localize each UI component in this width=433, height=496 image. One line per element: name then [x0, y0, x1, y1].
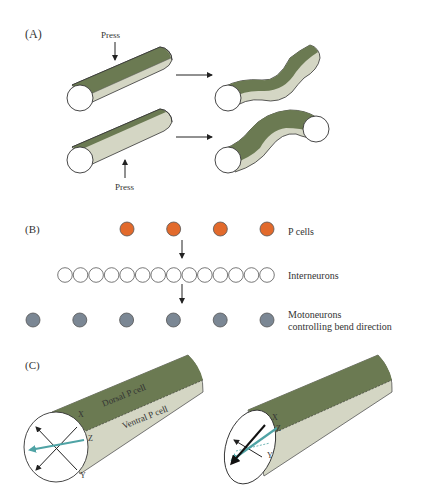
motoneurons-label-line2: controlling bend direction [288, 321, 392, 332]
motoneuron [120, 313, 134, 327]
motoneuron [213, 313, 227, 327]
segment-end-face [215, 147, 241, 173]
segment-end-face [215, 85, 241, 111]
panel-a-label: (A) [25, 27, 42, 41]
bent-segment-bottom [215, 110, 329, 173]
press-label-top: Press [101, 30, 120, 40]
bent-segment-top [215, 45, 320, 111]
interneuron [166, 268, 181, 283]
p-cell [167, 222, 181, 236]
motoneuron [73, 313, 87, 327]
interneuron [120, 268, 135, 283]
straight-segment-bottom [67, 109, 172, 173]
motoneuron [260, 313, 274, 327]
interneuron [260, 268, 275, 283]
segment-end-face [67, 147, 93, 173]
axis-x-label: X [78, 410, 84, 419]
cylinder-left: Dorsal P cell Ventral P cell X Z Y [24, 355, 203, 482]
motoneurons-label-line1: Motoneurons [288, 309, 341, 320]
interneuron [244, 268, 259, 283]
motoneuron [26, 313, 40, 327]
cross-section-left [24, 412, 88, 482]
panel-c-label: (C) [25, 359, 40, 372]
interneuron [58, 268, 73, 283]
axis-y-label: Y [80, 471, 86, 480]
interneuron [151, 268, 166, 283]
interneuron [198, 268, 213, 283]
interneuron [213, 268, 228, 283]
cylinder-right: X Z Y [215, 355, 392, 491]
axis-z-label: Z [88, 434, 93, 443]
panel-b-label: (B) [25, 223, 40, 236]
interneuron [182, 268, 197, 283]
p-cell [260, 222, 274, 236]
interneurons-label: Interneurons [288, 270, 339, 281]
segment-end-face [303, 116, 329, 142]
interneuron [89, 268, 104, 283]
axis-y-label-right: Y [267, 451, 273, 460]
axis-x-label-right: X [272, 413, 278, 422]
axis-z-label-right: Z [276, 424, 281, 433]
straight-segment-top [67, 47, 172, 111]
figure: (A) Press Press (B) P cells Interneuro [0, 0, 433, 496]
p-cells-label: P cells [288, 226, 314, 237]
interneuron [104, 268, 119, 283]
interneurons-row [58, 268, 275, 283]
segment-end-face [67, 85, 93, 111]
p-cell [213, 222, 227, 236]
motoneurons-row [26, 313, 274, 327]
press-label-bottom: Press [115, 182, 134, 192]
p-cells-row [120, 222, 274, 236]
interneuron [135, 268, 150, 283]
interneuron [229, 268, 244, 283]
interneuron [73, 268, 88, 283]
p-cell [120, 222, 134, 236]
motoneuron [166, 313, 180, 327]
